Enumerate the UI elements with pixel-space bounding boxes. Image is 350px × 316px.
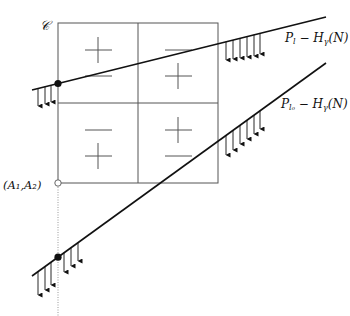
line-bottom-arrows	[38, 111, 260, 295]
line-top-intersection-dot	[54, 80, 61, 87]
point-a1-a2-label: (A₁,A₂)	[3, 178, 41, 192]
quadrant-bottom-left-signs	[85, 130, 112, 169]
quadrant-bottom-right-signs	[165, 117, 192, 156]
line-bottom	[32, 63, 326, 276]
diagram-canvas: 𝒞 (A₁,A₂) Pl − Hγ(N) Pl₀ − Hγ(N)	[0, 0, 350, 316]
line-top-arrows	[38, 33, 260, 106]
point-a1-a2-marker	[55, 180, 61, 186]
curve-c-label: 𝒞	[40, 18, 53, 33]
line-bottom-intersection-dot	[54, 254, 61, 261]
line-top	[32, 17, 326, 90]
line-top-label: Pl − Hγ(N)	[284, 31, 349, 46]
quadrant-top-left-signs	[85, 37, 112, 76]
line-bottom-label: Pl₀ − Hγ(N)	[280, 97, 348, 112]
